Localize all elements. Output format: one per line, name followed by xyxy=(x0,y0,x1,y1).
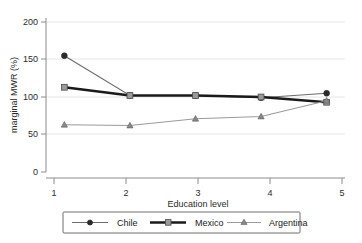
y-axis-title: marginal MWR (%) xyxy=(9,57,19,133)
legend: Chile Mexico Argentina xyxy=(63,212,308,233)
data-point-chile-5 xyxy=(324,90,330,96)
legend-marker-chile xyxy=(87,220,92,225)
data-point-mexico-4 xyxy=(258,94,264,100)
data-point-mexico-1 xyxy=(61,84,67,90)
data-series-group xyxy=(61,53,329,128)
data-point-mexico-2 xyxy=(127,93,133,99)
y-tick-label-0: 0 xyxy=(33,167,38,177)
chart-svg: 200 150 100 50 0 marginal MWR (%) 1 2 3 … xyxy=(0,0,362,243)
x-axis: 1 2 3 4 5 Education level xyxy=(46,178,345,209)
legend-label-argentina: Argentina xyxy=(269,218,308,228)
y-tick-label-200: 200 xyxy=(23,17,38,27)
data-point-chile-1 xyxy=(61,53,67,59)
y-tick-label-100: 100 xyxy=(23,92,38,102)
legend-marker-mexico xyxy=(165,220,171,226)
x-tick-label-5: 5 xyxy=(339,188,344,198)
y-tick-label-50: 50 xyxy=(28,129,38,139)
x-tick-label-4: 4 xyxy=(267,188,272,198)
chart-figure: 200 150 100 50 0 marginal MWR (%) 1 2 3 … xyxy=(0,0,362,243)
x-tick-label-3: 3 xyxy=(195,188,200,198)
x-axis-title: Education level xyxy=(167,199,228,209)
x-tick-label-1: 1 xyxy=(51,188,56,198)
series-line-argentina xyxy=(64,101,326,126)
y-axis: 200 150 100 50 0 marginal MWR (%) xyxy=(9,17,46,177)
data-point-mexico-3 xyxy=(193,93,199,99)
x-tick-label-2: 2 xyxy=(123,188,128,198)
legend-label-mexico: Mexico xyxy=(195,218,224,228)
legend-label-chile: Chile xyxy=(117,218,138,228)
y-tick-label-150: 150 xyxy=(23,54,38,64)
